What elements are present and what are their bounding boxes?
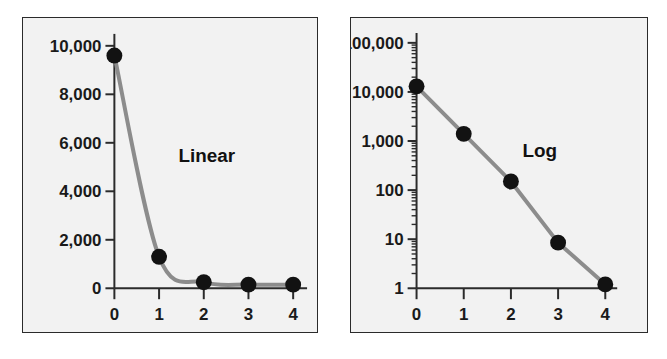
x-tick-label: 4 xyxy=(601,305,611,324)
y-tick-label: 100,000 xyxy=(351,34,404,53)
data-point-marker xyxy=(196,274,212,290)
y-tick-label: 10 xyxy=(385,230,404,249)
y-tick-label: 10,000 xyxy=(352,83,404,102)
data-point-marker xyxy=(597,276,613,292)
x-tick-label: 2 xyxy=(199,305,208,324)
log-y-tick-labels: 1101001,00010,000100,000 xyxy=(351,34,404,298)
log-annotation-label: Log xyxy=(522,140,557,161)
y-tick-label: 1,000 xyxy=(361,132,403,151)
x-tick-label: 1 xyxy=(459,305,468,324)
data-point-marker xyxy=(550,235,566,251)
data-point-marker xyxy=(285,277,301,293)
x-tick-label: 0 xyxy=(412,305,421,324)
x-tick-label: 0 xyxy=(110,305,119,324)
chart-panel-log: 1101001,00010,000100,000 01234 Log xyxy=(350,17,648,333)
chart-panel-linear: 02,0004,0006,0008,00010,000 01234 Linear xyxy=(22,17,318,333)
data-point-marker xyxy=(456,126,472,142)
y-tick-label: 8,000 xyxy=(59,85,101,104)
linear-chart-svg: 02,0004,0006,0008,00010,000 01234 Linear xyxy=(23,18,317,332)
linear-annotation-label: Linear xyxy=(178,145,235,166)
linear-x-tick-labels: 01234 xyxy=(110,305,299,324)
data-point-marker xyxy=(241,277,257,293)
x-tick-label: 3 xyxy=(553,305,562,324)
x-tick-label: 1 xyxy=(154,305,163,324)
data-point-marker xyxy=(106,48,122,64)
x-tick-label: 2 xyxy=(506,305,515,324)
y-tick-label: 0 xyxy=(92,279,101,298)
linear-data-series xyxy=(106,48,301,293)
log-data-series xyxy=(409,78,614,292)
data-point-marker xyxy=(503,174,519,190)
y-tick-label: 6,000 xyxy=(59,134,101,153)
x-tick-label: 3 xyxy=(244,305,253,324)
data-point-marker xyxy=(409,78,425,94)
series-line-path xyxy=(114,56,293,286)
y-tick-label: 1 xyxy=(394,279,403,298)
log-x-tick-labels: 01234 xyxy=(412,305,611,324)
y-tick-label: 10,000 xyxy=(50,37,102,56)
linear-y-tick-labels: 02,0004,0006,0008,00010,000 xyxy=(50,37,102,298)
data-point-marker xyxy=(151,249,167,265)
figure-linear-vs-log: 02,0004,0006,0008,00010,000 01234 Linear… xyxy=(0,0,667,359)
y-tick-label: 100 xyxy=(375,181,403,200)
y-tick-label: 4,000 xyxy=(59,182,101,201)
y-tick-label: 2,000 xyxy=(59,231,101,250)
log-chart-svg: 1101001,00010,000100,000 01234 Log xyxy=(351,18,647,332)
x-tick-label: 4 xyxy=(288,305,298,324)
log-axes xyxy=(408,33,618,299)
